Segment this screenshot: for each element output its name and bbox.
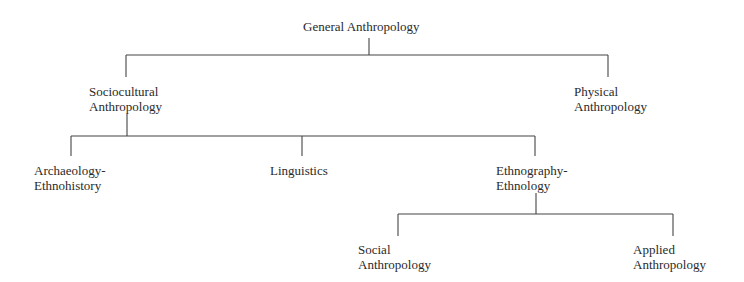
node-sociocultural-anthropology: Sociocultural Anthropology [89, 84, 162, 114]
node-label-line1: Applied [633, 242, 706, 257]
node-label: Linguistics [270, 163, 328, 178]
node-label-line2: Anthropology [574, 99, 647, 114]
node-label-line2: Anthropology [633, 257, 706, 272]
node-label-line2: Anthropology [358, 257, 431, 272]
node-label-line1: Archaeology- [34, 163, 105, 178]
node-label-line1: Ethnography- [496, 163, 567, 178]
node-social-anthropology: Social Anthropology [358, 242, 431, 272]
node-label-line1: Sociocultural [89, 84, 162, 99]
node-linguistics: Linguistics [270, 163, 328, 178]
node-label-line2: Anthropology [89, 99, 162, 114]
node-ethnography-ethnology: Ethnography- Ethnology [496, 163, 567, 193]
node-general-anthropology: General Anthropology [303, 19, 420, 34]
node-label: General Anthropology [303, 19, 420, 34]
node-archaeology-ethnohistory: Archaeology- Ethnohistory [34, 163, 105, 193]
node-label-line1: Social [358, 242, 431, 257]
node-applied-anthropology: Applied Anthropology [633, 242, 706, 272]
node-label-line2: Ethnohistory [34, 178, 105, 193]
tree-connectors [0, 0, 744, 282]
node-label-line1: Physical [574, 84, 647, 99]
node-physical-anthropology: Physical Anthropology [574, 84, 647, 114]
node-label-line2: Ethnology [496, 178, 567, 193]
